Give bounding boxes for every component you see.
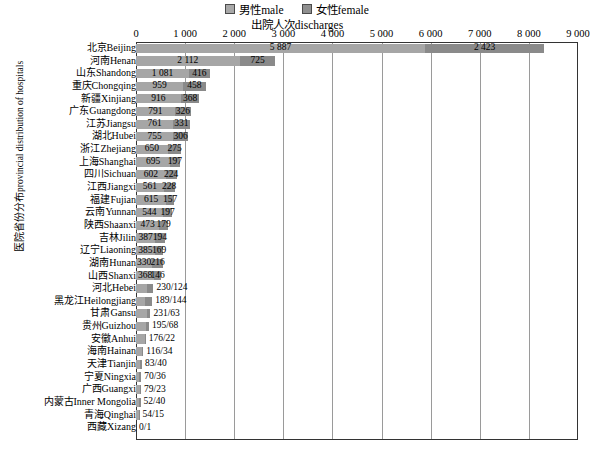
stacked-bar[interactable]: 473179 [136,221,168,230]
stacked-bar[interactable]: 1 081416 [136,69,210,78]
bar-segment-male[interactable] [136,334,145,343]
row-label: 安徽Anhui [6,333,136,346]
chart-row[interactable]: 湖南Hunan330216 [0,257,594,270]
bar-segment-male[interactable]: 959 [136,82,183,91]
bar-segment-female[interactable]: 326 [175,107,191,116]
bar-segment-male[interactable]: 2 112 [136,56,240,65]
stacked-bar[interactable]: 387194 [136,233,165,242]
bar-segment-female[interactable] [145,297,152,306]
bar-segment-male[interactable]: 916 [136,94,181,103]
bar-value-male: 544 [142,208,156,218]
chart-row[interactable]: 贵州Guizhou195/68 [0,320,594,333]
bar-segment-female[interactable]: 146 [154,271,161,280]
stacked-bar[interactable]: 5 8872 423 [136,44,544,53]
bar-segment-male[interactable] [136,309,147,318]
bar-value-combined: 0/1 [136,423,151,433]
bar-segment-female[interactable]: 179 [159,221,168,230]
bar-segment-male[interactable]: 650 [136,145,168,154]
chart-row[interactable]: 河南Henan2 112725 [0,55,594,68]
stacked-bar[interactable]: 330216 [136,259,163,268]
bar-segment-female[interactable]: 197 [170,157,180,166]
bar-segment-male[interactable] [136,297,145,306]
bar-segment-female[interactable]: 416 [189,69,209,78]
stacked-bar[interactable]: 561228 [136,183,175,192]
chart-row[interactable]: 西藏Xizang0/1 [0,421,594,434]
stacked-bar[interactable]: 602224 [136,170,177,179]
chart-row[interactable]: 上海Shanghai695197 [0,156,594,169]
bar-segment-female[interactable]: 331 [173,120,189,129]
chart-row[interactable]: 北京Beijing5 8872 423 [0,42,594,55]
bar-segment-male[interactable]: 5 887 [136,44,425,53]
stacked-bar[interactable]: 761331 [136,120,190,129]
chart-row[interactable]: 天津Tianjin83/40 [0,358,594,371]
bar-segment-female[interactable]: 725 [240,56,276,65]
chart-row[interactable]: 江西Jiangxi561228 [0,181,594,194]
stacked-bar[interactable] [136,347,143,356]
chart-row[interactable]: 江苏Jiangsu761331 [0,118,594,131]
chart-row[interactable]: 广西Guangxi79/23 [0,383,594,396]
chart-row[interactable]: 黑龙江Heilongjiang189/144 [0,295,594,308]
chart-row[interactable]: 辽宁Liaoning385169 [0,244,594,257]
bar-segment-female[interactable]: 224 [166,170,177,179]
legend-item-male[interactable]: 男性male [225,1,283,17]
chart-row[interactable]: 山西Shanxi368146 [0,270,594,283]
stacked-bar[interactable] [136,284,153,293]
bar-segment-male[interactable]: 791 [136,107,175,116]
chart-row[interactable]: 山东Shandong1 081416 [0,67,594,80]
chart-row[interactable]: 广东Guangdong791326 [0,105,594,118]
bar-segment-male[interactable]: 755 [136,132,173,141]
stacked-bar[interactable]: 544197 [136,208,172,217]
chart-row[interactable]: 云南Yunnan544197 [0,206,594,219]
chart-row[interactable]: 浙江Zhejiang650275 [0,143,594,156]
stacked-bar[interactable]: 368146 [136,271,161,280]
chart-row[interactable]: 四川Sichuan602224 [0,168,594,181]
stacked-bar[interactable]: 2 112725 [136,56,275,65]
bar-segment-female[interactable]: 194 [155,233,165,242]
stacked-bar[interactable]: 385169 [136,246,163,255]
chart-row[interactable]: 重庆Chongqing959458 [0,80,594,93]
stacked-bar[interactable]: 959458 [136,82,206,91]
chart-row[interactable]: 新疆Xinjiang916368 [0,93,594,106]
chart-row[interactable]: 甘肃Gansu231/63 [0,307,594,320]
bar-segment-male[interactable]: 561 [136,183,164,192]
stacked-bar[interactable] [136,297,152,306]
chart-row[interactable]: 内蒙古Inner Mongolia52/40 [0,396,594,409]
chart-row[interactable]: 湖北Hubei755306 [0,130,594,143]
chart-row[interactable]: 河北Hebei230/124 [0,282,594,295]
bar-segment-male[interactable]: 695 [136,157,170,166]
stacked-bar[interactable]: 695197 [136,157,180,166]
chart-row[interactable]: 青海Qinghai54/15 [0,409,594,422]
bar-segment-female[interactable]: 275 [168,145,182,154]
chart-row[interactable]: 陕西Shaanxi473179 [0,219,594,232]
chart-row[interactable]: 吉林Jilin387194 [0,232,594,245]
bar-segment-female[interactable]: 197 [163,208,173,217]
stacked-bar[interactable]: 650275 [136,145,181,154]
bar-segment-female[interactable]: 2 423 [425,44,544,53]
bar-segment-male[interactable]: 602 [136,170,166,179]
chart-row[interactable]: 福建Fujian615157 [0,194,594,207]
bar-segment-female[interactable]: 228 [164,183,175,192]
stacked-bar[interactable]: 916368 [136,94,199,103]
chart-row[interactable]: 海南Hainan116/34 [0,345,594,358]
bar-segment-female[interactable]: 368 [181,94,199,103]
stacked-bar[interactable]: 791326 [136,107,191,116]
bar-segment-male[interactable]: 615 [136,195,166,204]
bar-segment-female[interactable]: 306 [173,132,188,141]
stacked-bar[interactable] [136,322,149,331]
bar-segment-male[interactable]: 1 081 [136,69,189,78]
bar-segment-female[interactable]: 157 [166,195,174,204]
stacked-bar[interactable]: 615157 [136,195,174,204]
bar-segment-male[interactable] [136,284,147,293]
chart-row[interactable]: 宁夏Ningxia70/36 [0,371,594,384]
legend-item-female[interactable]: 女性female [302,1,369,17]
bar-segment-male[interactable]: 544 [136,208,163,217]
bar-segment-female[interactable]: 458 [183,82,205,91]
bar-segment-male[interactable]: 761 [136,120,173,129]
chart-row[interactable]: 安徽Anhui176/22 [0,333,594,346]
stacked-bar[interactable] [136,309,150,318]
bar-segment-female[interactable]: 169 [155,246,163,255]
bar-segment-male[interactable] [136,322,146,331]
stacked-bar[interactable] [136,334,146,343]
bar-segment-female[interactable]: 216 [152,259,163,268]
stacked-bar[interactable]: 755306 [136,132,188,141]
